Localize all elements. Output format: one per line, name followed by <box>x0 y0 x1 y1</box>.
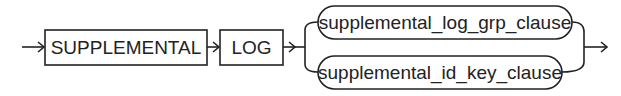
keyword-supplemental: SUPPLEMENTAL <box>51 37 202 58</box>
connector-arrow <box>207 42 219 52</box>
alt-supplemental-log-grp-clause: supplemental_log_grp_clause <box>319 12 571 34</box>
syntax-diagram: SUPPLEMENTAL LOG supplemental_log_grp_cl… <box>0 0 621 96</box>
keyword-log: LOG <box>231 37 271 58</box>
entry-arrow <box>22 42 44 52</box>
exit-arrow <box>584 42 607 52</box>
alt-supplemental-id-key-clause: supplemental_id_key_clause <box>318 62 562 84</box>
branch-left <box>305 22 318 72</box>
connector-arrow <box>283 42 305 52</box>
